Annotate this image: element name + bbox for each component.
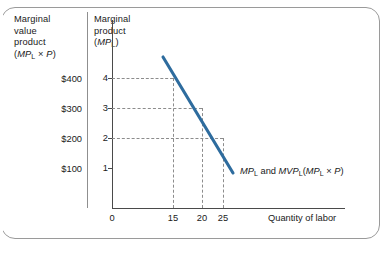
mp-subscript: L bbox=[254, 170, 258, 178]
curve-annotation: MPL and MVPL(MPL × P) bbox=[240, 166, 344, 176]
mp-curve-line bbox=[163, 57, 233, 173]
mp-subscript-2: L bbox=[320, 170, 324, 178]
x-axis-title: Quantity of labor bbox=[268, 213, 336, 223]
paren-close: ) bbox=[341, 166, 344, 176]
figure-container: Marginal value product (MPL × P) Margina… bbox=[0, 0, 383, 259]
plot-area: 4 3 2 1 0 15 20 25 MPL and MVPL(MPL × P)… bbox=[0, 0, 383, 259]
mvp-subscript: L bbox=[299, 170, 303, 178]
conjunction: and bbox=[258, 166, 279, 176]
mvp-symbol: MVP bbox=[279, 166, 299, 176]
times-sign: × bbox=[324, 166, 335, 176]
mp-symbol: MP bbox=[240, 166, 254, 176]
mp-symbol-2: MP bbox=[306, 166, 320, 176]
